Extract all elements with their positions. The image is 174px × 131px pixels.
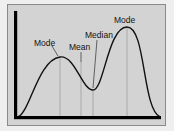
mode-left-label: Mode xyxy=(34,38,56,48)
x-axis xyxy=(14,116,161,119)
y-axis xyxy=(14,11,17,119)
median-label: Median xyxy=(85,30,113,40)
mode-right-label: Mode xyxy=(114,15,136,25)
mean-label: Mean xyxy=(69,42,91,52)
median-leader xyxy=(93,40,97,88)
bimodal-distribution-diagram: Mode Mean Median Mode xyxy=(0,0,174,131)
